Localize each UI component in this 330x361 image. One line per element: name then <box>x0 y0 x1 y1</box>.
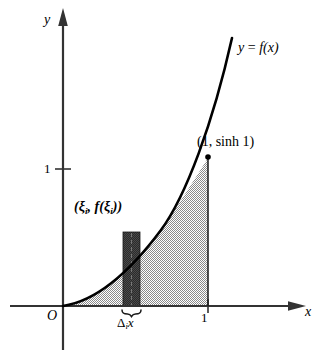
width-label: Δix <box>117 316 134 329</box>
figure-riemann-sum-sinh: y x O 1 1 y = f(x) (1, sinh 1) (ξi, f(ξi… <box>0 0 330 361</box>
width-label-subscript: i <box>125 321 127 331</box>
curve-label-equals: = <box>244 40 259 55</box>
x-axis-label: x <box>305 305 311 319</box>
x-axis-arrowhead <box>288 301 306 311</box>
curve-label-fx: f(x) <box>259 40 278 55</box>
sample-point-paren-close: )) <box>113 199 122 214</box>
y-axis-arrowhead <box>58 8 68 26</box>
endpoint-label: (1, sinh 1) <box>197 135 254 149</box>
x-axis-tick-label-1: 1 <box>201 311 208 324</box>
y-axis-tick-label-1: 1 <box>44 162 51 175</box>
curve-equation-label: y = f(x) <box>238 41 279 55</box>
sample-point-label: (ξi, f(ξi)) <box>74 200 122 214</box>
sample-point-subscript-1: i <box>85 206 88 216</box>
width-label-x: x <box>128 315 134 330</box>
endpoint-marker-dot <box>205 154 211 160</box>
origin-label: O <box>47 309 57 323</box>
sample-point-middle: , f( <box>88 199 104 214</box>
y-axis-label: y <box>44 13 50 27</box>
sample-point-subscript-2: i <box>110 206 113 216</box>
diagram-canvas <box>0 0 330 361</box>
